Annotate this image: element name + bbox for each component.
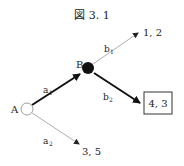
edge-label-b1: b 1: [104, 44, 114, 55]
edge-b2: [94, 73, 140, 103]
payoff-b2: 4, 3: [148, 98, 167, 109]
edge-a1: [32, 74, 80, 105]
game-tree-diagram: 図 3. 1 a 1 a 2 3, 5 b 1 1, 2 b 2 4, 3 B …: [0, 0, 184, 166]
svg-text:1: 1: [110, 48, 114, 55]
svg-text:2: 2: [109, 96, 113, 103]
edge-label-b2: b 2: [103, 92, 113, 103]
edge-label-a1: a 1: [43, 85, 53, 96]
node-a: [21, 103, 33, 115]
payoff-b1: 1, 2: [143, 27, 162, 38]
figure-title: 図 3. 1: [74, 9, 110, 22]
edge-label-a2: a 2: [43, 136, 53, 147]
edge-b1: [93, 33, 138, 64]
node-a-label: A: [10, 104, 19, 115]
node-b: [82, 62, 94, 74]
edge-a2: [32, 113, 79, 144]
node-b-label: B: [76, 59, 83, 70]
payoff-a2: 3, 5: [82, 146, 101, 157]
svg-text:2: 2: [49, 140, 53, 147]
svg-text:1: 1: [49, 89, 53, 96]
